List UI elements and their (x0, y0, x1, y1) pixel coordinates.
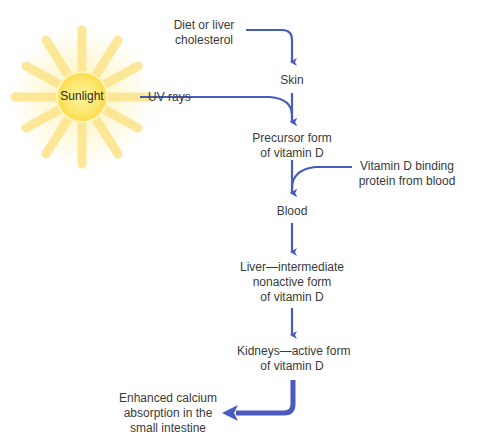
node-kidneys-line1: Kidneys—active form (237, 344, 347, 359)
node-kidneys-line2: of vitamin D (237, 359, 347, 374)
node-precursor: Precursor form of vitamin D (242, 131, 342, 161)
node-calcium-line3: small intestine (116, 421, 220, 436)
node-precursor-line1: Precursor form (242, 131, 342, 146)
node-blood: Blood (262, 204, 322, 219)
diagram-canvas (0, 0, 492, 443)
node-precursor-line2: of vitamin D (242, 146, 342, 161)
node-liver: Liver—intermediate nonactive form of vit… (237, 260, 347, 305)
arrow-kidneys-to-calcium (236, 380, 293, 413)
node-binding-line1: Vitamin D binding (352, 159, 462, 174)
node-liver-line2: nonactive form (237, 275, 347, 290)
node-binding-line2: protein from blood (352, 174, 462, 189)
sun-label: Sunlight (57, 89, 107, 103)
arrow-diet-to-skin (246, 30, 292, 62)
node-binding: Vitamin D binding protein from blood (352, 159, 462, 189)
node-uv: UV rays (148, 90, 191, 105)
arrow-binding-to-blood (292, 167, 352, 193)
node-diet-line2: cholesterol (164, 33, 244, 48)
node-diet-line1: Diet or liver (164, 18, 244, 33)
node-liver-line1: Liver—intermediate (237, 260, 347, 275)
node-kidneys: Kidneys—active form of vitamin D (237, 344, 347, 374)
node-diet: Diet or liver cholesterol (164, 18, 244, 48)
node-calcium-line1: Enhanced calcium (116, 391, 220, 406)
node-calcium-line2: absorption in the (116, 406, 220, 421)
node-liver-line3: of vitamin D (237, 290, 347, 305)
node-skin: Skin (262, 73, 322, 88)
node-calcium: Enhanced calcium absorption in the small… (116, 391, 220, 436)
